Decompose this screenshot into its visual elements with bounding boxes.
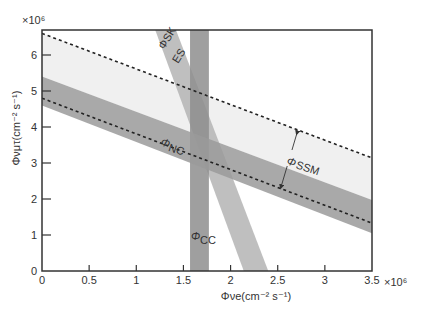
flux-chart: 00.511.522.533.50123456 ×10⁶ ×10⁶ Φνe(cm… (0, 0, 426, 312)
x-tick-label: 2.5 (270, 274, 285, 286)
y-tick-label: 3 (31, 157, 37, 169)
x-tick-label: 1.5 (176, 274, 191, 286)
y-axis-label: Φνμτ(cm⁻² s⁻¹) (10, 91, 22, 166)
x-tick-label: 3.5 (364, 274, 379, 286)
x-tick-label: 1 (133, 274, 139, 286)
y-tick-label: 5 (31, 85, 37, 97)
y-tick-label: 2 (31, 193, 37, 205)
svg-text:CC: CC (200, 234, 216, 246)
x-tick-label: 0 (39, 274, 45, 286)
x-axis-label: Φνe(cm⁻² s⁻¹) (221, 290, 291, 302)
x-multiplier: ×10⁶ (384, 276, 407, 288)
y-tick-label: 1 (31, 229, 37, 241)
y-tick-label: 6 (31, 49, 37, 61)
x-tick-label: 3 (322, 274, 328, 286)
x-tick-label: 0.5 (81, 274, 96, 286)
x-tick-label: 2 (228, 274, 234, 286)
y-tick-label: 4 (31, 121, 37, 133)
y-multiplier: ×10⁶ (22, 14, 45, 26)
svg-text:Φ: Φ (191, 230, 200, 242)
y-tick-label: 0 (31, 265, 37, 277)
